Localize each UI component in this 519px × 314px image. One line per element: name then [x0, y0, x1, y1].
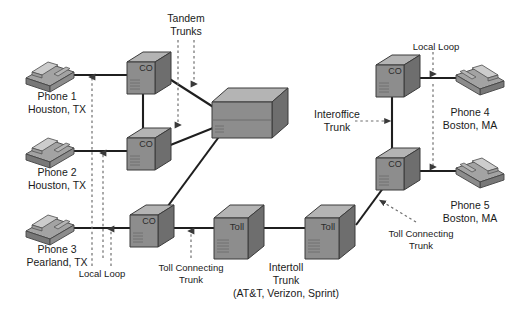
annotation-line2: Trunk [269, 274, 303, 287]
phone-label-phone4: Phone 4 Boston, MA [443, 106, 497, 131]
link-co3-tandem [165, 134, 221, 210]
phone-label-line1: Phone 1 [28, 90, 86, 103]
node-label-co3: CO [142, 216, 156, 226]
annotation-line2: Trunk [314, 121, 360, 134]
node-toll1: Toll [214, 205, 264, 259]
phone-label-phone2: Phone 2 Houston, TX [28, 166, 86, 191]
annotation-line1: Toll Connecting [159, 262, 224, 274]
annotation-line1: Local Loop [79, 268, 125, 280]
annotation-intertoll-carriers: (AT&T, Verizon, Sprint) [233, 287, 339, 300]
annotation-line2: Trunks [167, 25, 204, 38]
node-co5: CO [376, 148, 420, 190]
leader-toll-connecting-right [381, 201, 416, 222]
annotation-line1: Interoffice [314, 108, 360, 121]
annotation-interoffice-trunk: Interoffice Trunk [314, 108, 360, 133]
phone-label-line2: Boston, MA [443, 119, 497, 132]
phone-label-line1: Phone 2 [28, 166, 86, 179]
node-label-co4: CO [388, 66, 402, 76]
annotation-line1: Intertoll [269, 261, 303, 274]
node-co3: CO [130, 205, 174, 247]
annotation-line1: Tandem [167, 12, 204, 25]
phone-icon-phone5 [456, 158, 504, 188]
phone-icon-phone2 [26, 138, 74, 168]
phone-icon-phone4 [456, 65, 504, 95]
link-co1-tandem [168, 78, 218, 110]
node-co1: CO [127, 52, 171, 94]
annotation-local-loop-right: Local Loop [413, 41, 459, 53]
annotation-toll-connecting-trunk-left: Toll Connecting Trunk [159, 262, 224, 285]
phone-label-phone3: Phone 3 Pearland, TX [26, 243, 87, 268]
annotation-tandem-trunks: Tandem Trunks [167, 12, 204, 37]
node-co4: CO [376, 55, 420, 97]
phone-label-line2: Boston, MA [443, 212, 497, 225]
node-label-toll1: Toll [230, 221, 244, 232]
network-diagram: CO CO CO [0, 0, 519, 314]
phone-label-line2: Houston, TX [28, 179, 86, 192]
phone-icon-phone1 [26, 62, 74, 92]
phone-label-line1: Phone 4 [443, 106, 497, 119]
phone-label-line1: Phone 3 [26, 243, 87, 256]
phone-label-phone1: Phone 1 Houston, TX [28, 90, 86, 115]
annotation-toll-connecting-trunk-right: Toll Connecting Trunk [389, 228, 454, 251]
annotation-intertoll-trunk: Intertoll Trunk [269, 261, 303, 286]
node-label-co1: CO [139, 63, 153, 73]
node-label-toll2: Toll [321, 221, 335, 232]
node-label-co2: CO [139, 139, 153, 149]
annotation-line2: Trunk [389, 240, 454, 252]
phone-label-line2: Houston, TX [28, 103, 86, 116]
node-co2: CO [127, 128, 171, 170]
node-toll2: Toll [305, 205, 355, 259]
phone-label-phone5: Phone 5 Boston, MA [443, 199, 497, 224]
node-tandem-switch [212, 88, 288, 138]
annotation-local-loop-left: Local Loop [79, 268, 125, 280]
annotation-line1: Local Loop [413, 41, 459, 53]
annotation-line1: (AT&T, Verizon, Sprint) [233, 287, 339, 300]
phone-label-line1: Phone 5 [443, 199, 497, 212]
phone-label-line2: Pearland, TX [26, 256, 87, 269]
annotation-line2: Trunk [159, 274, 224, 286]
phone-icon-phone3 [26, 215, 74, 245]
annotation-line1: Toll Connecting [389, 228, 454, 240]
node-label-co5: CO [388, 159, 402, 169]
link-co2-tandem [168, 126, 218, 146]
